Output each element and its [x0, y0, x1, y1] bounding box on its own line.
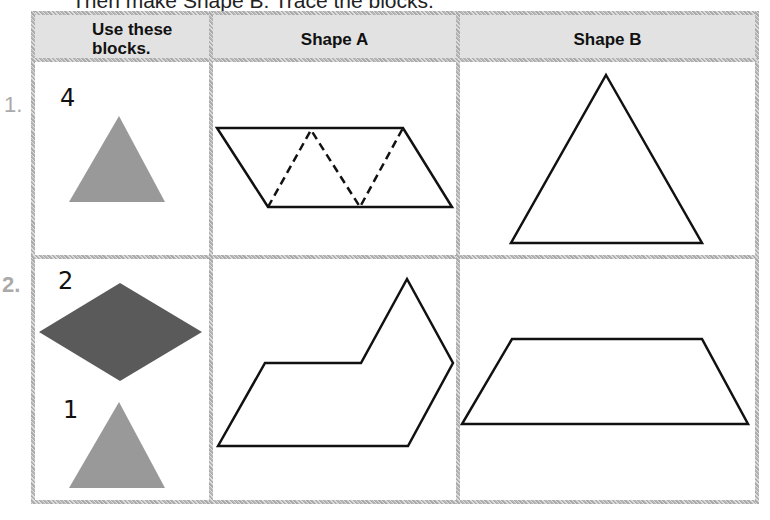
triangle-block: [69, 116, 165, 202]
rhombus-block: [39, 283, 202, 381]
dashed-divider: [268, 128, 403, 207]
shape-a-polygon: [218, 279, 453, 446]
shape-b-triangle: [511, 75, 702, 243]
shapes-layer: [0, 0, 770, 520]
triangle-block: [69, 402, 165, 488]
shape-b-trapezoid: [462, 339, 748, 424]
